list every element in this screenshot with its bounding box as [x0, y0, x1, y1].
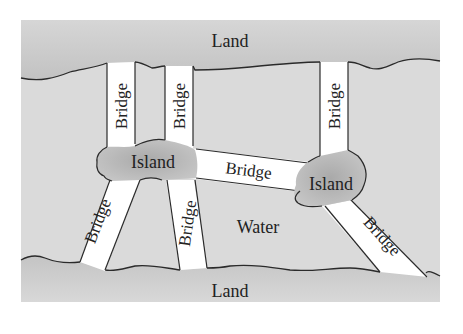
water-label: Water — [237, 217, 280, 237]
bridge-top-left: Bridge — [107, 62, 135, 152]
island-right-label: Island — [309, 174, 353, 194]
land-bottom-label: Land — [212, 281, 249, 301]
island-left-label: Island — [131, 152, 175, 172]
bridges-diagram: Bridge Bridge Bridge Bridge Bridge Bridg… — [0, 0, 463, 334]
bridge-label: Bridge — [112, 83, 131, 129]
land-top-label: Land — [212, 31, 249, 51]
bridge-label: Bridge — [325, 83, 344, 129]
bridge-label: Bridge — [170, 83, 189, 129]
bridge-top-middle: Bridge — [165, 66, 193, 152]
bridge-top-right: Bridge — [320, 62, 348, 160]
